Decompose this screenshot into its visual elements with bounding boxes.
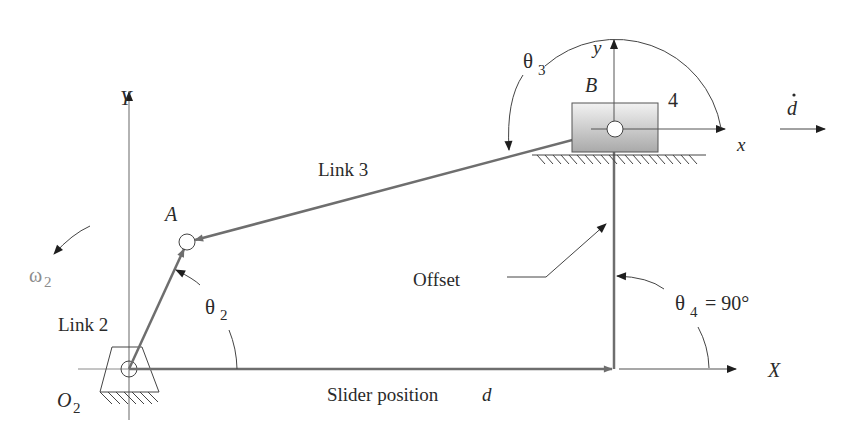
local-x-axis-label: x bbox=[736, 134, 746, 155]
pin-b-circle bbox=[607, 121, 623, 137]
theta2-label: θ bbox=[205, 295, 215, 319]
theta3-sub: 3 bbox=[538, 62, 546, 78]
slider-position-symbol: d bbox=[482, 384, 492, 405]
slider-number-label: 4 bbox=[668, 89, 678, 111]
pin-a-label: A bbox=[163, 203, 178, 225]
offset-vector: Offset bbox=[413, 136, 614, 369]
global-y-axis-label: Y bbox=[120, 87, 133, 109]
offset-label: Offset bbox=[413, 269, 461, 290]
slider-position-label: Slider position bbox=[327, 384, 439, 405]
slider-velocity-symbol: d bbox=[787, 97, 798, 119]
theta4-value: = 90° bbox=[705, 292, 749, 314]
pin-a: A bbox=[163, 203, 195, 250]
pin-b-label: B bbox=[585, 74, 597, 96]
diagram-canvas: Y O 2 Slider position d X Link 2 bbox=[0, 0, 859, 442]
slider-crank-diagram: Y O 2 Slider position d X Link 2 bbox=[0, 0, 859, 442]
theta3-label: θ bbox=[523, 49, 533, 73]
theta4-label: θ bbox=[675, 291, 685, 315]
pin-a-circle bbox=[179, 234, 195, 250]
omega2-label: ω bbox=[29, 264, 42, 286]
slider-velocity: d bbox=[780, 93, 825, 129]
ground-pivot-o2: O 2 bbox=[57, 347, 159, 416]
ground-hatch-slider bbox=[537, 155, 697, 164]
velocity-dot bbox=[792, 93, 795, 96]
theta4-sub: 4 bbox=[690, 304, 698, 320]
link-2: Link 2 bbox=[58, 249, 184, 369]
global-x-axis-label: X bbox=[767, 359, 781, 381]
omega2-sub: 2 bbox=[44, 274, 52, 290]
link-3: Link 3 bbox=[195, 129, 614, 240]
omega2-rotation: ω 2 bbox=[29, 226, 90, 290]
pivot-o2-label: O bbox=[57, 389, 71, 411]
pivot-o2-sub: 2 bbox=[73, 400, 81, 416]
link-2-label: Link 2 bbox=[58, 314, 108, 335]
theta4-angle: θ 4 = 90° bbox=[617, 276, 749, 368]
link-3-label: Link 3 bbox=[318, 159, 368, 180]
slider-position-vector: Slider position d bbox=[129, 369, 612, 405]
theta2-sub: 2 bbox=[220, 307, 228, 323]
global-x-axis: X bbox=[619, 359, 781, 381]
theta2-angle: θ 2 bbox=[176, 270, 237, 369]
